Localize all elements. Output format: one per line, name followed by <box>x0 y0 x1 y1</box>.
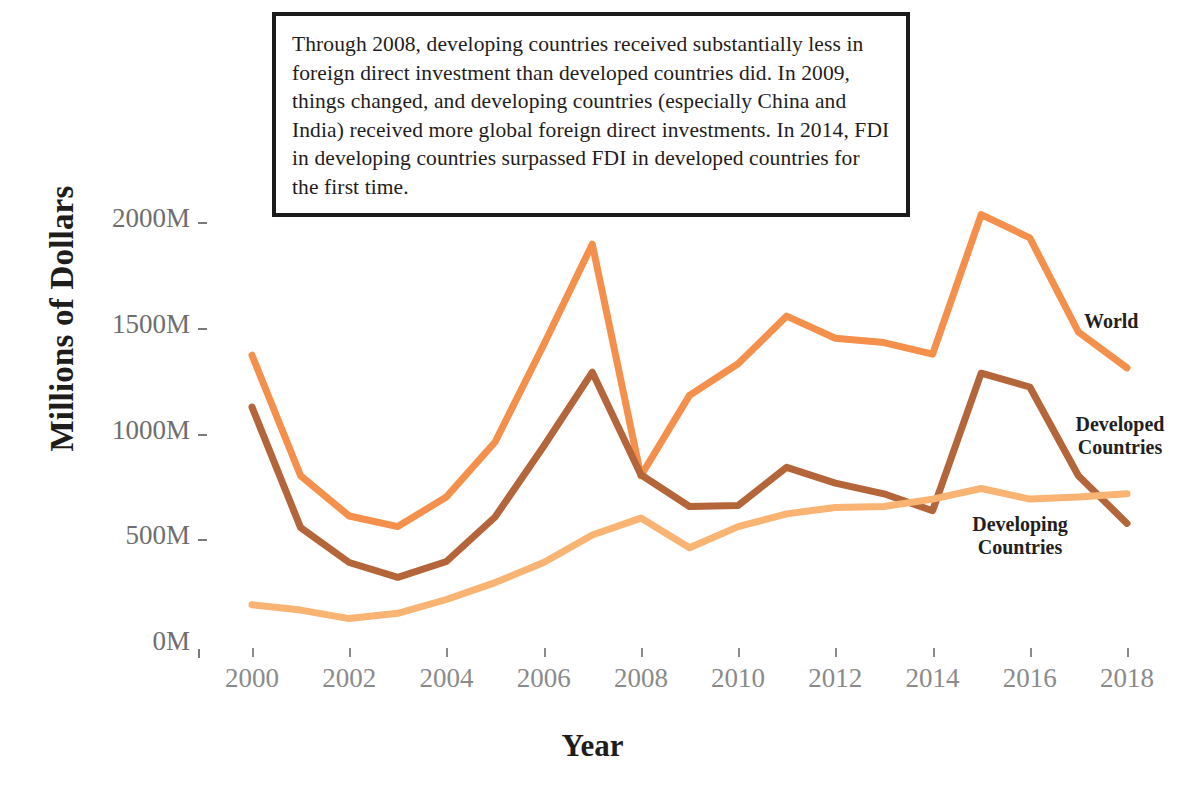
x-tick-mark <box>1030 648 1032 657</box>
y-tick-label: 1500M <box>20 309 190 340</box>
x-tick-label: 2018 <box>1072 663 1182 694</box>
y-tick-label: 1000M <box>20 415 190 446</box>
x-tick-label: 2006 <box>489 663 599 694</box>
x-tick-label: 2008 <box>586 663 696 694</box>
fdi-line-chart: Through 2008, developing countries recei… <box>0 0 1185 805</box>
x-tick-mark <box>252 648 254 657</box>
annotation-text: Through 2008, developing countries recei… <box>292 30 890 201</box>
series-line-world <box>252 215 1127 527</box>
x-tick-mark <box>835 648 837 657</box>
x-tick-mark <box>349 648 351 657</box>
y-tick-label: 0M <box>20 626 190 657</box>
x-tick-label: 2014 <box>878 663 988 694</box>
series-label-world: World <box>1084 310 1176 333</box>
series-label-developed: Developed Countries <box>1060 413 1180 459</box>
x-tick-label: 2012 <box>780 663 890 694</box>
x-tick-label: 2004 <box>391 663 501 694</box>
x-tick-mark <box>641 648 643 657</box>
annotation-callout: Through 2008, developing countries recei… <box>272 12 910 217</box>
x-tick-mark <box>544 648 546 657</box>
y-tick-mark <box>198 434 207 436</box>
x-tick-label: 2010 <box>683 663 793 694</box>
y-tick-mark <box>198 328 207 330</box>
x-tick-mark <box>933 648 935 657</box>
x-tick-mark <box>446 648 448 657</box>
y-tick-mark <box>198 222 207 224</box>
y-tick-mark <box>198 539 207 541</box>
y-tick-label: 500M <box>20 520 190 551</box>
x-axis-title: Year <box>0 728 1185 764</box>
y-tick-mark <box>198 649 200 658</box>
x-tick-mark <box>738 648 740 657</box>
x-tick-label: 2000 <box>197 663 307 694</box>
x-tick-mark <box>1127 648 1129 657</box>
x-tick-label: 2016 <box>975 663 1085 694</box>
x-tick-label: 2002 <box>294 663 404 694</box>
y-tick-label: 2000M <box>20 203 190 234</box>
series-label-developing: Developing Countries <box>955 513 1085 559</box>
